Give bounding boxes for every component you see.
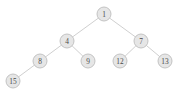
tree-edge [73, 18, 99, 37]
tree-node[interactable]: 8 [33, 54, 47, 68]
tree-node-label: 7 [139, 37, 143, 46]
tree-edge [110, 18, 136, 37]
tree-node[interactable]: 12 [113, 54, 127, 68]
tree-node[interactable]: 9 [81, 54, 95, 68]
tree-edge [146, 45, 159, 56]
tree-node-label: 15 [9, 77, 17, 86]
tree-edge [125, 46, 136, 56]
tree-node[interactable]: 4 [60, 34, 74, 48]
binary-tree-figure: 14789121315 [0, 0, 180, 97]
tree-node-label: 4 [65, 37, 69, 46]
tree-edge [72, 46, 83, 56]
tree-node[interactable]: 13 [158, 54, 172, 68]
tree-node-label: 1 [102, 10, 106, 19]
tree-nodes-group: 14789121315 [6, 7, 172, 88]
tree-node-label: 8 [38, 57, 42, 66]
tree-node-label: 13 [161, 57, 169, 66]
tree-edge [19, 65, 35, 77]
tree-node-label: 12 [116, 57, 124, 66]
tree-node[interactable]: 7 [134, 34, 148, 48]
tree-canvas: 14789121315 [0, 0, 180, 97]
tree-node[interactable]: 15 [6, 74, 20, 88]
tree-node-label: 9 [86, 57, 90, 66]
tree-edge [46, 45, 62, 57]
tree-node[interactable]: 1 [97, 7, 111, 21]
